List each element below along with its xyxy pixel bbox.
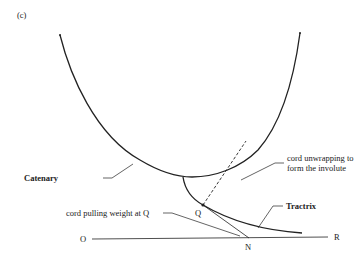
point-n-label: N — [245, 242, 251, 252]
catenary-curve — [60, 33, 300, 177]
cord-pulling-label: cord pulling weight at Q — [66, 208, 149, 218]
leader-cord-pulling — [163, 213, 240, 236]
catenary-left-end — [59, 34, 61, 36]
tractrix-curve — [183, 177, 302, 233]
point-o-label: O — [80, 234, 86, 244]
involute-label-line2: form the involute — [287, 163, 346, 173]
tractrix-label: Tractrix — [286, 201, 316, 211]
cord-q-to-n — [203, 205, 249, 238]
baseline-o-r — [92, 237, 328, 239]
leader-catenary — [103, 164, 133, 178]
involute-label-line1: cord unwrapping to — [287, 153, 354, 163]
point-r-label: R — [334, 232, 340, 242]
panel-label: (c) — [17, 10, 26, 20]
leader-involute — [241, 163, 284, 180]
catenary-right-end — [299, 32, 301, 34]
point-q-label: Q — [195, 208, 201, 218]
catenary-label: Catenary — [24, 173, 58, 183]
involute-dashed-cord — [203, 141, 246, 205]
leader-tractrix — [258, 206, 283, 228]
diagram-canvas — [0, 0, 361, 262]
